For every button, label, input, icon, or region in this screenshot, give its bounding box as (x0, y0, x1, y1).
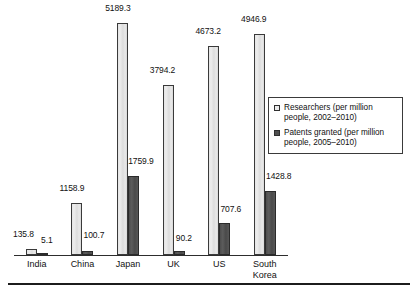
legend-label-researchers-line2: people, 2002–2010) (284, 113, 357, 122)
bar-group-china: 1158.9 100.7 (60, 10, 106, 255)
x-tick-japan: Japan (105, 259, 151, 270)
legend-item-researchers[interactable]: Researchers (per million people, 2002–20… (274, 103, 397, 123)
legend-label-researchers: Researchers (per million people, 2002–20… (284, 103, 373, 123)
x-tick-china: China (60, 259, 106, 270)
bar-japan-researchers[interactable] (117, 23, 128, 255)
bar-china-researchers[interactable] (71, 203, 82, 255)
x-tick-us: US (196, 259, 242, 270)
bars-india (25, 10, 49, 255)
x-tick-us-line1: US (196, 259, 242, 270)
bar-uk-researchers[interactable] (163, 85, 174, 255)
x-tick-india-line1: India (14, 259, 60, 270)
bar-us-patents[interactable] (219, 223, 230, 255)
legend-swatch-researchers-icon (274, 105, 280, 111)
bar-japan-patents[interactable] (128, 176, 139, 255)
x-tick-japan-line1: Japan (105, 259, 151, 270)
bars-uk (162, 10, 186, 255)
legend-label-patents: Patents granted (per million people, 200… (284, 128, 384, 148)
bar-group-japan: 5189.3 1759.9 (105, 10, 151, 255)
bar-group-india: 135.8 5.1 (14, 10, 60, 255)
x-tick-china-line1: China (60, 259, 106, 270)
x-axis-line (14, 255, 288, 256)
bar-korea-researchers[interactable] (254, 34, 265, 255)
plot-area: 135.8 5.1 1158.9 100.7 5189.3 1759.9 (14, 10, 288, 255)
chart-legend: Researchers (per million people, 2002–20… (268, 97, 403, 154)
legend-label-patents-line1: Patents granted (per million (284, 128, 384, 137)
bars-us (207, 10, 231, 255)
bar-chart-figure: 135.8 5.1 1158.9 100.7 5189.3 1759.9 (0, 0, 418, 296)
x-tick-south-korea-line1: South (242, 259, 288, 270)
bar-group-uk: 3794.2 90.2 (151, 10, 197, 255)
legend-item-patents[interactable]: Patents granted (per million people, 200… (274, 128, 397, 148)
x-tick-uk-line1: UK (151, 259, 197, 270)
bar-group-us: 4673.2 707.6 (196, 10, 242, 255)
bars-japan (116, 10, 140, 255)
legend-label-patents-line2: people, 2005–2010) (284, 138, 357, 147)
x-tick-uk: UK (151, 259, 197, 270)
bar-us-researchers[interactable] (208, 46, 219, 255)
bottom-horizontal-rule (8, 283, 410, 285)
bar-korea-patents[interactable] (265, 191, 276, 255)
legend-swatch-patents-icon (274, 130, 280, 136)
x-tick-south-korea: South Korea (242, 259, 288, 280)
bars-china (70, 10, 94, 255)
legend-label-researchers-line1: Researchers (per million (284, 103, 373, 112)
x-tick-india: India (14, 259, 60, 270)
x-tick-south-korea-line2: Korea (242, 270, 288, 281)
